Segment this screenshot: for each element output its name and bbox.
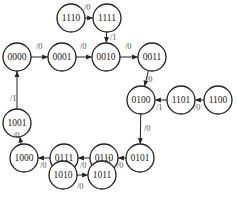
arrow-icon [20,137,21,144]
state-0011: 0011 [138,43,166,71]
state-0101: 0101 [126,144,154,172]
transition-label: /1 [156,102,163,112]
state-1100: 1100 [204,86,232,114]
state-label: 0000 [8,52,27,62]
state-1011: 1011 [88,161,116,189]
transition-label: /0 [80,41,87,51]
state-1010: 1010 [49,161,77,189]
transition-label: /0 [117,160,124,170]
state-1101: 1101 [167,86,195,114]
transition-label: /0 [146,74,153,84]
state-label: 0100 [132,95,151,105]
transition-label: /0 [40,160,47,170]
state-label: 1000 [15,153,34,163]
state-label: 0101 [131,153,150,163]
state-label: 1111 [98,13,116,23]
transition-label: /0 [80,160,87,170]
arrow-icon [140,114,141,144]
state-label: 1110 [62,13,81,23]
transition-label: /1 [10,93,17,103]
state-label: 0010 [97,52,116,62]
state-0000: 0000 [3,43,31,71]
transition-label: /0 [77,181,84,191]
state-label: 1100 [209,95,228,105]
state-0100: 0100 [127,86,155,114]
state-1110: 1110 [57,4,85,32]
state-label: 1011 [93,170,112,180]
state-label: 0011 [143,52,162,62]
state-1111: 1111 [93,4,121,32]
transition-label: /1 [105,155,112,165]
transition-label: /0 [125,41,132,51]
transition-1000-to-1001 [20,137,21,144]
transition-label: /0 [84,2,91,12]
state-1000: 1000 [10,144,38,172]
transition-label: /1 [110,32,117,42]
transition-label: /0 [13,130,20,140]
state-label: 0001 [53,52,72,62]
state-label: 1101 [172,95,191,105]
state-diagram: 1110111100000001001000110100110111001001… [0,0,237,197]
state-0001: 0001 [48,43,76,71]
state-label: 1001 [8,118,27,128]
state-0010: 0010 [92,43,120,71]
transition-label: /0 [36,41,43,51]
state-label: 1010 [54,170,73,180]
transition-label: /0 [194,102,201,112]
transition-label: /0 [144,123,151,133]
transition-0100-to-0101 [140,114,141,144]
